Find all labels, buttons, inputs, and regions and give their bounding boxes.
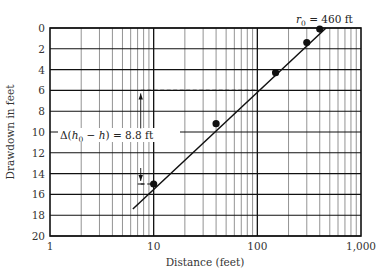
y-tick-label: 18 xyxy=(32,209,45,221)
drawdown-distance-chart: 02468101214161820 1101001,000 Distance (… xyxy=(0,0,389,280)
data-points xyxy=(150,25,323,187)
y-tick-label: 8 xyxy=(38,105,45,117)
r0-annotation: r0 = 460 ft xyxy=(296,13,354,28)
y-tick-label: 20 xyxy=(32,230,45,242)
data-point xyxy=(212,120,219,127)
data-point xyxy=(150,180,157,187)
y-tick-label: 4 xyxy=(38,64,45,76)
y-axis-ticks: 02468101214161820 xyxy=(32,22,46,242)
y-tick-label: 16 xyxy=(32,188,46,200)
x-tick-label: 1 xyxy=(47,240,54,252)
y-tick-label: 0 xyxy=(38,22,45,34)
y-tick-label: 6 xyxy=(38,84,45,96)
delta-annotation: Δ(h0 − h) = 8.8 ft xyxy=(58,128,180,144)
y-tick-label: 10 xyxy=(32,126,45,138)
data-point xyxy=(303,39,310,46)
data-point xyxy=(272,69,279,76)
x-axis-label: Distance (feet) xyxy=(166,256,245,268)
y-tick-label: 14 xyxy=(32,168,46,180)
x-tick-label: 1,000 xyxy=(346,240,376,252)
data-point xyxy=(316,25,323,32)
y-tick-label: 12 xyxy=(32,147,45,159)
fit-line xyxy=(133,28,326,209)
y-axis-label: Drawdown in feet xyxy=(4,84,16,180)
y-tick-label: 2 xyxy=(38,43,45,55)
x-tick-label: 100 xyxy=(247,240,267,252)
x-axis-ticks: 1101001,000 xyxy=(47,240,376,252)
x-tick-label: 10 xyxy=(147,240,160,252)
